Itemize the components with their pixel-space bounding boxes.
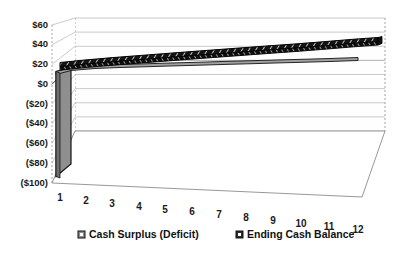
y-tick-label: ($60) — [26, 137, 48, 148]
x-tick-label: 7 — [216, 209, 222, 220]
legend-item-cash-surplus-deficit[interactable]: Cash Surplus (Deficit) — [78, 228, 199, 240]
y-tick-label: $0 — [37, 78, 48, 89]
x-tick-label: 6 — [189, 206, 195, 217]
y-tick-label: $60 — [32, 19, 48, 30]
chart-container: $60 $40 $20 $0 ($20) ($40) ($60) ($80) (… — [0, 0, 406, 260]
surplus-left-cap — [56, 72, 60, 179]
x-tick-label: 2 — [83, 195, 89, 206]
x-tick-label: 9 — [270, 215, 276, 226]
chart-legend: Cash Surplus (Deficit) Ending Cash Balan… — [78, 228, 355, 240]
back-wall — [75, 18, 385, 131]
x-tick-label: 1 — [57, 192, 63, 203]
y-tick-label: $40 — [32, 38, 48, 49]
legend-swatch-inner — [80, 233, 83, 236]
legend-label-ending-cash-balance: Ending Cash Balance — [247, 228, 355, 240]
y-tick-label: ($80) — [26, 157, 48, 168]
legend-label-cash-surplus-deficit: Cash Surplus (Deficit) — [89, 228, 199, 240]
y-tick-label: ($40) — [26, 117, 48, 128]
balance-right-cap — [378, 37, 382, 46]
cash-flow-3d-area-chart: $60 $40 $20 $0 ($20) ($40) ($60) ($80) (… — [0, 0, 406, 260]
x-tick-label: 8 — [243, 212, 249, 223]
x-tick-label: 5 — [162, 204, 168, 215]
legend-item-ending-cash-balance[interactable]: Ending Cash Balance — [236, 228, 355, 240]
y-tick-label: ($100) — [21, 177, 48, 188]
y-tick-label: ($20) — [26, 98, 48, 109]
y-tick-label: $20 — [32, 58, 48, 69]
legend-swatch-inner — [238, 233, 241, 236]
x-tick-label: 3 — [109, 198, 115, 209]
y-axis-tick-labels: $60 $40 $20 $0 ($20) ($40) ($60) ($80) (… — [21, 19, 48, 188]
chart-floor — [52, 131, 385, 197]
x-tick-label: 4 — [136, 201, 142, 212]
